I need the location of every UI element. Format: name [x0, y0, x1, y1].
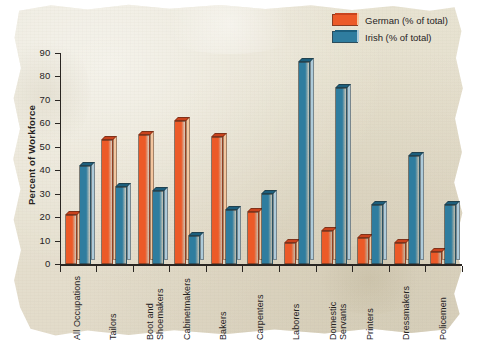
bar-side-face	[164, 187, 168, 260]
legend-item-label: German (% of total)	[365, 15, 448, 26]
bar-side-face	[200, 232, 204, 260]
legend-swatch	[332, 31, 358, 43]
bar	[174, 121, 186, 264]
y-tick-label: 80	[29, 70, 51, 81]
bar-front-face	[174, 121, 186, 264]
bar	[101, 140, 113, 264]
bar	[444, 205, 456, 264]
x-axis-category-label: Printers	[365, 308, 375, 340]
y-tick	[55, 170, 60, 171]
bar-front-face	[371, 205, 383, 264]
y-tick-label: 10	[29, 235, 51, 246]
bar-side-face	[347, 84, 351, 260]
bar	[211, 137, 223, 264]
y-tick	[55, 241, 60, 242]
bar	[430, 252, 442, 264]
x-tick	[96, 266, 97, 272]
x-axis-category-label: Carpenters	[255, 294, 265, 340]
bar	[261, 194, 273, 264]
y-tick	[55, 100, 60, 101]
bar-side-face	[237, 206, 241, 260]
bar	[247, 212, 259, 264]
x-axis-category-label: Boot and	[145, 303, 155, 340]
y-axis-line	[60, 53, 62, 265]
y-tick	[55, 123, 60, 124]
legend-swatch	[332, 14, 358, 26]
x-axis-category-label: Bakers	[218, 311, 228, 340]
x-axis-line	[60, 264, 463, 266]
y-tick	[55, 194, 60, 195]
bar-front-face	[225, 210, 237, 264]
y-tick	[55, 217, 60, 218]
bar	[284, 243, 296, 264]
bar	[79, 166, 91, 264]
bar	[152, 191, 164, 264]
x-axis-category-label: Servants	[338, 304, 348, 340]
bar	[357, 238, 369, 264]
legend-swatch-side-face	[357, 13, 359, 25]
bar-front-face	[430, 252, 442, 264]
bar-front-face	[335, 88, 347, 264]
bar	[115, 187, 127, 264]
bar-side-face	[420, 152, 424, 260]
y-tick	[55, 147, 60, 148]
bar	[225, 210, 237, 264]
bar-front-face	[247, 212, 259, 264]
y-tick	[55, 53, 60, 54]
x-tick	[279, 266, 280, 272]
bar-side-face	[456, 201, 460, 260]
bar-front-face	[138, 135, 150, 264]
y-tick	[55, 76, 60, 77]
bar	[408, 156, 420, 264]
bar	[394, 243, 406, 264]
bar-side-face	[310, 58, 314, 260]
x-axis-category-label: Cabinetmakers	[182, 278, 192, 340]
legend-item[interactable]: Irish (% of total)	[332, 31, 432, 43]
legend-swatch-top-face	[335, 13, 359, 15]
bar	[321, 231, 333, 264]
x-tick	[206, 266, 207, 272]
bar-front-face	[357, 238, 369, 264]
x-axis-category-label: Policemen	[438, 297, 448, 340]
bar	[188, 236, 200, 264]
y-tick-label: 70	[29, 94, 51, 105]
bar-front-face	[101, 140, 113, 264]
grouped-bar-chart: 0102030405060708090Percent of WorkforceA…	[0, 0, 499, 357]
bar-front-face	[321, 231, 333, 264]
x-tick	[352, 266, 353, 272]
legend-swatch-side-face	[357, 30, 359, 42]
bar	[138, 135, 150, 264]
bar-front-face	[408, 156, 420, 264]
x-tick	[60, 266, 61, 272]
bar-front-face	[394, 243, 406, 264]
legend-item[interactable]: German (% of total)	[332, 14, 448, 26]
x-axis-category-label: Dressmakers	[401, 286, 411, 340]
bar-front-face	[261, 194, 273, 264]
bar-front-face	[284, 243, 296, 264]
y-tick	[55, 264, 60, 265]
bar-front-face	[115, 187, 127, 264]
x-tick	[133, 266, 134, 272]
bar	[371, 205, 383, 264]
x-tick	[389, 266, 390, 272]
bar-front-face	[298, 62, 310, 264]
bar-side-face	[273, 190, 277, 260]
bar	[65, 215, 77, 264]
x-tick	[462, 266, 463, 272]
bar-front-face	[79, 166, 91, 264]
bar-side-face	[91, 162, 95, 260]
bar-side-face	[127, 183, 131, 260]
x-axis-category-label: Domestic	[328, 302, 338, 340]
bar-front-face	[444, 205, 456, 264]
bar-side-face	[383, 201, 387, 260]
x-axis-category-label: All Occupations	[72, 276, 82, 340]
y-tick-label: 0	[29, 258, 51, 269]
x-axis-category-label: Laborers	[291, 304, 301, 340]
x-tick	[316, 266, 317, 272]
bar-front-face	[211, 137, 223, 264]
x-tick	[425, 266, 426, 272]
x-axis-category-label: Tailors	[108, 313, 118, 340]
legend-item-label: Irish (% of total)	[365, 32, 432, 43]
legend-swatch-top-face	[335, 30, 359, 32]
bar-front-face	[152, 191, 164, 264]
